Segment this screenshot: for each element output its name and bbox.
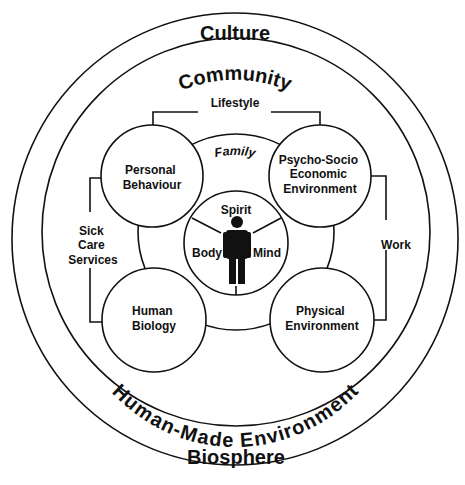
lifestyle-connector-right (271, 112, 320, 126)
body-label: Body (192, 246, 222, 260)
community-label: Community (175, 62, 295, 95)
mandala-of-health-diagram: Culture Community Human-Made Environment… (0, 0, 465, 485)
culture-label: Culture (200, 22, 270, 44)
personal-behaviour-label: Personal Behaviour (123, 163, 182, 192)
biosphere-label: Biosphere (187, 446, 285, 468)
human-made-environment-label: Human-Made Environment (108, 379, 362, 451)
mind-label: Mind (253, 246, 281, 260)
sick-care-connector-bottom (90, 268, 103, 322)
work-label: Work (381, 238, 411, 252)
psycho-socio-economic-label: Psycho-Socio Economic Environment (279, 153, 362, 196)
human-biology-label: Human Biology (132, 304, 176, 333)
family-label: Family (213, 144, 258, 160)
physical-environment-label: Physical Environment (285, 304, 358, 333)
spirit-label: Spirit (221, 203, 252, 217)
lifestyle-label: Lifestyle (211, 96, 260, 110)
sick-care-label: Sick Care Services (68, 224, 118, 267)
lifestyle-connector (153, 112, 198, 126)
work-connector-top (370, 176, 386, 220)
